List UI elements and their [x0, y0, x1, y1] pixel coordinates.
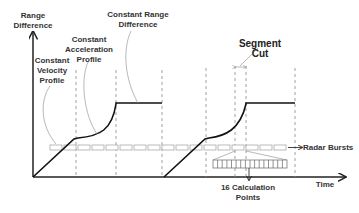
y-axis-label: Range Difference	[10, 11, 56, 31]
profile-curve-1	[33, 103, 162, 177]
diagram-svg	[0, 0, 359, 213]
radar-bursts-row	[50, 145, 286, 150]
annotation-constant-range: Constant Range Difference	[104, 10, 172, 30]
leader-constant-acceleration	[84, 62, 97, 134]
zoom-line-right	[246, 151, 287, 160]
annotation-constant-acceleration: Constant Acceleration Profile	[64, 35, 114, 65]
zoom-line-left	[213, 151, 235, 160]
annotation-segment-cut: Segment Cut	[230, 39, 290, 59]
calc-points-strip	[213, 160, 287, 168]
x-axis-label: Time	[310, 180, 340, 190]
annotation-radar-bursts: Radar Bursts	[303, 143, 359, 153]
leader-constant-range	[126, 31, 138, 103]
leader-constant-velocity	[43, 86, 56, 144]
annotation-calc-points: 16 Calculation Points	[220, 183, 276, 203]
diagram-canvas: Range Difference Time Constant Velocity …	[0, 0, 359, 213]
